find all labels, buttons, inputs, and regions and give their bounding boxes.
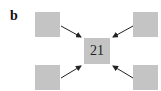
arrow-top-left <box>61 26 81 37</box>
arrow-top-right <box>113 26 133 37</box>
arrows <box>0 0 161 91</box>
arrow-bottom-left <box>61 66 81 78</box>
arrow-bottom-right <box>113 66 133 78</box>
